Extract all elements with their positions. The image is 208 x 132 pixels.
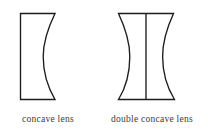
concave-lens-drawing [21, 14, 56, 100]
double-concave-lens-label: double concave lens [96, 112, 208, 126]
concave-lens-label: concave lens [0, 112, 96, 126]
concave-lens-outline [21, 14, 56, 100]
lens-diagram-figure: concave lens double concave lens [0, 0, 208, 132]
double-concave-lens-drawing [119, 14, 175, 100]
caption-row: concave lens double concave lens [0, 108, 208, 132]
